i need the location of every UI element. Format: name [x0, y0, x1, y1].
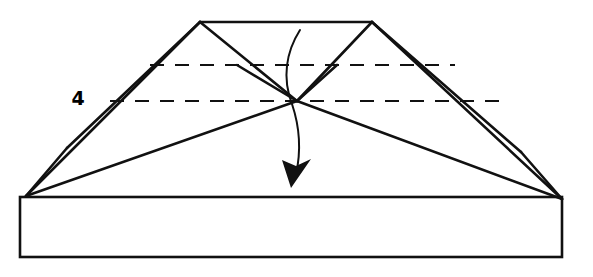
dashed-fold-line-group [110, 65, 506, 101]
origami-step-figure: 4 [0, 0, 593, 277]
step-number-label: 4 [71, 87, 84, 109]
left-wing-upper [67, 22, 200, 148]
base-band [20, 197, 562, 257]
right-valley-to-tip [297, 101, 562, 199]
right-wing-upper [372, 22, 521, 152]
left-short-spur [237, 65, 297, 101]
fold-direction-arrow [282, 30, 311, 188]
right-short-spur [297, 65, 337, 101]
fold-arrow-head [282, 159, 311, 188]
figure-canvas: 4 [0, 0, 593, 277]
left-diagonal-to-center [200, 22, 297, 101]
